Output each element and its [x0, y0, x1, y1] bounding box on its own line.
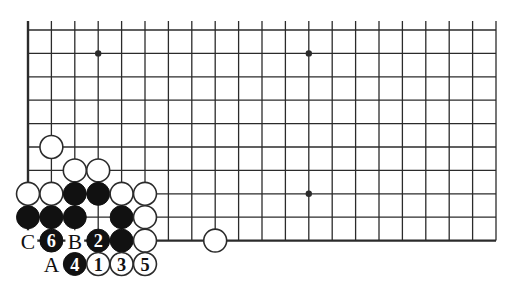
white-stone — [134, 206, 157, 229]
black-stone — [63, 206, 86, 229]
white-stone-disc — [63, 159, 86, 182]
black-stone-disc — [63, 182, 86, 205]
white-stone-disc — [40, 182, 63, 205]
white-stone-disc — [204, 229, 227, 252]
black-stone-disc — [17, 206, 40, 229]
move-number-label: 3 — [117, 255, 126, 275]
move-stone-6: 6 — [40, 229, 63, 252]
white-stone — [110, 182, 133, 205]
point-label-c: C — [21, 230, 35, 254]
move-stone-1: 1 — [87, 253, 110, 276]
white-stone-disc — [87, 159, 110, 182]
move-number-label: 5 — [140, 255, 149, 275]
move-stone-4: 4 — [63, 253, 86, 276]
go-board-diagram: 624135 CBA — [0, 0, 524, 284]
star-point — [306, 50, 312, 56]
move-number-label: 6 — [47, 231, 56, 251]
move-stone-3: 3 — [110, 253, 133, 276]
black-stone-disc — [40, 206, 63, 229]
white-stone-disc — [110, 182, 133, 205]
move-number-label: 1 — [94, 255, 103, 275]
black-stone-disc — [110, 229, 133, 252]
move-number-label: 2 — [94, 231, 103, 251]
black-stone — [40, 206, 63, 229]
move-stone-2: 2 — [87, 229, 110, 252]
star-point — [95, 50, 101, 56]
black-stone — [110, 206, 133, 229]
white-stone-disc — [134, 206, 157, 229]
white-stone — [204, 229, 227, 252]
black-stone — [17, 206, 40, 229]
point-label-b: B — [68, 230, 82, 254]
goban-canvas: 624135 CBA — [0, 0, 524, 284]
point-label-a: A — [44, 253, 60, 277]
move-stone-5: 5 — [134, 253, 157, 276]
white-stone-disc — [134, 229, 157, 252]
black-stone — [87, 182, 110, 205]
white-stone — [40, 182, 63, 205]
white-stone — [87, 159, 110, 182]
white-stone — [63, 159, 86, 182]
white-stone — [40, 136, 63, 159]
white-stone — [134, 229, 157, 252]
white-stone-disc — [134, 182, 157, 205]
move-number-label: 4 — [70, 255, 79, 275]
black-stone-disc — [63, 206, 86, 229]
black-stone — [63, 182, 86, 205]
white-stone-disc — [17, 182, 40, 205]
white-stone — [134, 182, 157, 205]
white-stone — [17, 182, 40, 205]
black-stone-disc — [110, 206, 133, 229]
star-point — [306, 191, 312, 197]
white-stone-disc — [40, 136, 63, 159]
black-stone-disc — [87, 182, 110, 205]
black-stone — [110, 229, 133, 252]
